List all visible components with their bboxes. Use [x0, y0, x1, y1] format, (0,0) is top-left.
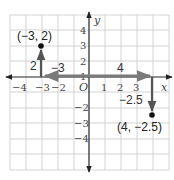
- y-tick: 2: [80, 56, 86, 67]
- y-tick: −3: [74, 118, 89, 129]
- vector-right-label: 4: [117, 61, 124, 75]
- x-tick: 1: [101, 82, 107, 93]
- vector-down-label: −2.5: [119, 93, 143, 107]
- y-tick: 3: [80, 40, 86, 51]
- point-neg3-2: [38, 43, 44, 49]
- x-tick: −2: [51, 82, 66, 93]
- x-tick: 3: [133, 82, 139, 93]
- x-tick: 2: [117, 82, 123, 93]
- x-axis-label: x: [161, 81, 168, 94]
- x-tick: −3: [35, 82, 50, 93]
- y-tick: 4: [80, 25, 86, 36]
- point-label: (4, −2.5): [117, 120, 162, 134]
- vector-up-label: 2: [30, 59, 37, 73]
- point-label: (−3, 2): [17, 29, 52, 43]
- x-tick: −4: [12, 82, 27, 93]
- y-axis-label: y: [93, 14, 101, 27]
- point-4-neg2_5: [149, 112, 155, 118]
- coordinate-plane: y x O −4 −3 −2 1 2 3 4 3 2 1 −2 −3 −4 2 …: [0, 0, 174, 180]
- vector-left-label: −3: [51, 61, 65, 75]
- y-tick: −2: [74, 102, 89, 113]
- origin-label: O: [79, 81, 88, 94]
- y-tick: −4: [74, 133, 89, 144]
